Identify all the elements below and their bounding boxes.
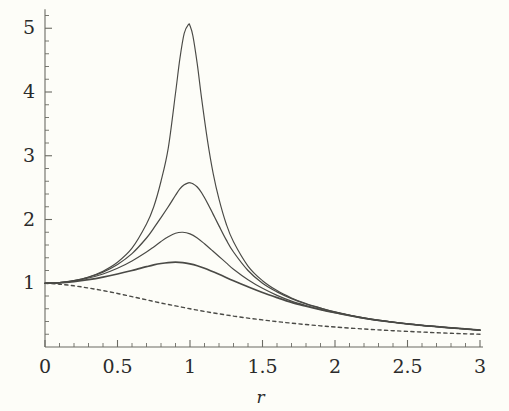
x-tick-label: 3	[450, 357, 509, 376]
curve-zeta-0.10	[45, 24, 480, 330]
chart-figure: 00.511.522.5312345 r	[0, 0, 509, 411]
y-tick-label: 2	[0, 210, 35, 229]
y-tick-label: 3	[0, 146, 35, 165]
y-tick-label: 4	[0, 82, 35, 101]
curves-group	[45, 24, 480, 334]
y-tick-label: 5	[0, 18, 35, 37]
curve-zeta-0.20	[45, 183, 480, 330]
x-tick-label: 1	[160, 357, 220, 376]
plot-canvas	[0, 0, 509, 411]
x-tick-label: 0.5	[88, 357, 148, 376]
curve-static-decay-dashed	[45, 283, 480, 334]
axis-label-x: r	[257, 387, 265, 407]
x-tick-label: 2	[305, 357, 365, 376]
axes-group	[45, 9, 483, 347]
y-tick-label: 1	[0, 273, 35, 292]
x-tick-label: 0	[15, 357, 75, 376]
x-tick-label: 1.5	[233, 357, 293, 376]
x-tick-label: 2.5	[378, 357, 438, 376]
